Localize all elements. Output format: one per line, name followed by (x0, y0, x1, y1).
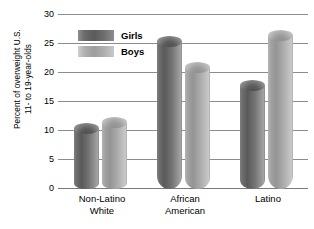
legend-swatch-boys-icon (78, 46, 114, 57)
bar-body (240, 86, 265, 189)
x-category-label-latino: Latino (228, 193, 308, 205)
gridline-30: 30 (58, 14, 308, 15)
bar-girls-latino (240, 86, 265, 189)
y-axis-title-line-2: 11- to 19-year-olds (24, 0, 35, 159)
bar-body (74, 128, 99, 189)
x-category-label-non-latino-white: Non-Latino White (62, 193, 142, 217)
y-axis-title: Percent of overweight U.S. 11- to 19-yea… (13, 0, 43, 159)
bar-cap (102, 117, 127, 128)
bar-body (185, 67, 210, 189)
bar-cap (268, 30, 293, 41)
legend-swatch-girls-icon (78, 30, 114, 41)
y-tick-label-15: 15 (38, 97, 54, 106)
bar-cap (185, 62, 210, 73)
y-axis-title-line-1: Percent of overweight U.S. (13, 0, 24, 159)
y-tick-label-25: 25 (38, 39, 54, 48)
y-tick-label-5: 5 (38, 155, 54, 164)
bar-body (102, 122, 127, 189)
x-category-label-line-1: African (145, 193, 225, 205)
x-category-label-line-2: American (145, 205, 225, 217)
x-category-label-line-1: Latino (228, 193, 308, 205)
bar-girls-non-latino-white (74, 128, 99, 189)
bar-body (268, 35, 293, 189)
bar-boys-african-american (185, 67, 210, 189)
bar-girls-african-american (157, 41, 182, 189)
y-tick-label-30: 30 (38, 10, 54, 19)
x-category-label-line-2: White (62, 205, 142, 217)
bar-body (157, 41, 182, 189)
bar-boys-non-latino-white (102, 122, 127, 189)
chart-legend: Girls Boys (78, 30, 198, 62)
legend-item-girls: Girls (78, 30, 198, 41)
bar-cap (74, 123, 99, 134)
legend-label-girls: Girls (121, 31, 143, 41)
y-tick-label-10: 10 (38, 126, 54, 135)
y-tick-label-20: 20 (38, 68, 54, 77)
legend-label-boys: Boys (121, 47, 144, 57)
bar-boys-latino (268, 35, 293, 189)
y-tick-label-0: 0 (38, 184, 54, 193)
legend-item-boys: Boys (78, 46, 198, 57)
bar-chart: Percent of overweight U.S. 11- to 19-yea… (0, 0, 314, 229)
x-category-label-african-american: African American (145, 193, 225, 217)
x-category-label-line-1: Non-Latino (62, 193, 142, 205)
